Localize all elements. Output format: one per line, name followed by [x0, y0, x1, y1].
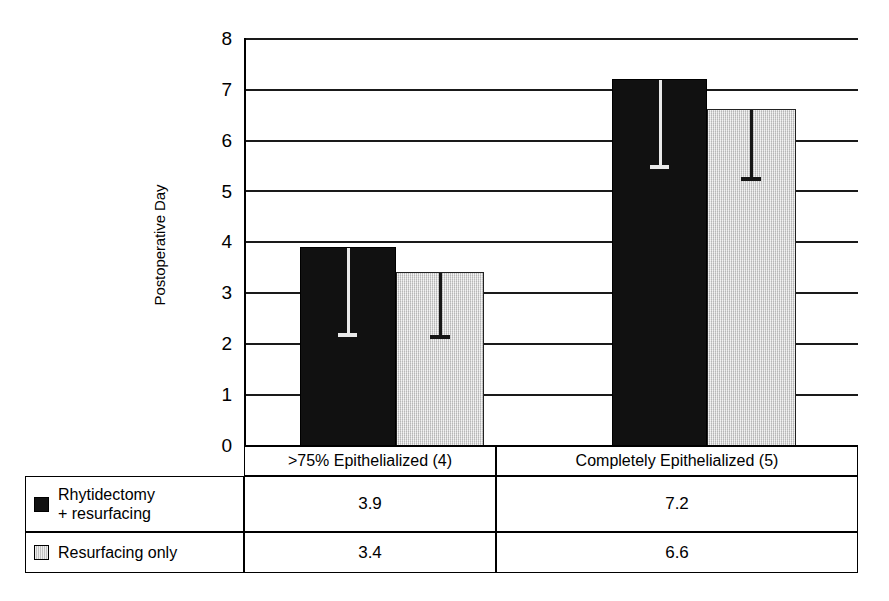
error-bar-stem — [659, 80, 662, 166]
y-tick-label-1: 1 — [206, 385, 232, 404]
error-bar-cap — [430, 335, 450, 339]
bar-chart-figure: Postoperative Day 8 7 6 5 4 3 2 1 0 — [0, 0, 889, 601]
value-text: 3.9 — [358, 494, 382, 514]
legend-item-series1: Rhytidectomy + resurfacing — [25, 476, 244, 532]
y-tick-label-0: 0 — [206, 436, 232, 455]
y-axis-title: Postoperative Day — [151, 150, 168, 340]
y-tick-label-3: 3 — [206, 283, 232, 302]
value-text: 3.4 — [358, 543, 382, 563]
legend-label-series2: Resurfacing only — [58, 543, 177, 562]
legend-label-series1: Rhytidectomy + resurfacing — [58, 485, 155, 523]
y-tick-label-5: 5 — [206, 182, 232, 201]
y-tick-label-6: 6 — [206, 131, 232, 150]
error-bar-stem — [439, 273, 442, 336]
legend-label-series1-line1: Rhytidectomy — [58, 486, 155, 503]
y-axis-line — [244, 38, 246, 447]
value-text: 7.2 — [665, 494, 689, 514]
error-bar-stem — [347, 248, 350, 334]
y-tick-label-7: 7 — [206, 80, 232, 99]
y-tick-label-4: 4 — [206, 232, 232, 251]
table-cell-series1-group1: 3.9 — [244, 476, 496, 532]
table-cell-series2-group2: 6.6 — [496, 532, 858, 573]
error-bar-cap — [338, 333, 357, 337]
legend-label-series1-line2: + resurfacing — [58, 504, 155, 523]
table-cell-series2-group1: 3.4 — [244, 532, 496, 573]
error-bar-stem — [750, 110, 753, 178]
legend-item-series2: Resurfacing only — [25, 532, 244, 573]
error-bar-cap — [741, 177, 761, 181]
y-tick-label-8: 8 — [206, 29, 232, 48]
value-text: 6.6 — [665, 543, 689, 563]
gridline-7 — [244, 89, 858, 91]
gridline-8 — [244, 38, 858, 40]
legend-swatch-series1-icon — [34, 497, 49, 512]
category-header-group2: Completely Epithelialized (5) — [496, 446, 858, 476]
table-cell-series1-group2: 7.2 — [496, 476, 858, 532]
legend-swatch-series2-icon — [34, 545, 49, 560]
category-header-group1: >75% Epithelialized (4) — [244, 446, 496, 476]
error-bar-cap — [650, 165, 669, 169]
y-tick-label-2: 2 — [206, 334, 232, 353]
